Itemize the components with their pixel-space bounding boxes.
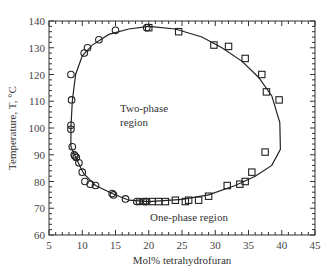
one-phase-label: One-phase region (150, 211, 228, 223)
square-marker (262, 149, 268, 155)
svg-text:15: 15 (110, 239, 122, 251)
svg-text:45: 45 (310, 239, 322, 251)
two-phase-label-1: Two-phase (120, 102, 168, 114)
circle-marker (143, 24, 150, 31)
svg-text:80: 80 (34, 176, 46, 188)
svg-text:10: 10 (77, 239, 89, 251)
square-marker (195, 197, 201, 203)
svg-text:110: 110 (29, 95, 46, 107)
square-marker (225, 43, 231, 49)
circle-marker (68, 97, 75, 104)
square-marker (276, 97, 282, 103)
x-axis-title: Mol% tetrahydrofuran (133, 254, 232, 266)
y-axis-title: Temperature, T, °C (6, 86, 18, 170)
svg-text:5: 5 (46, 239, 52, 251)
square-marker (259, 71, 265, 77)
chart: 5101520253035404560708090100110120130140… (0, 0, 334, 278)
two-phase-label-2: region (120, 116, 149, 128)
svg-text:40: 40 (276, 239, 288, 251)
svg-text:90: 90 (34, 149, 46, 161)
data-points (68, 24, 283, 204)
svg-text:30: 30 (210, 239, 222, 251)
svg-text:140: 140 (29, 15, 46, 27)
svg-text:35: 35 (243, 239, 255, 251)
square-marker (242, 55, 248, 61)
square-marker (249, 169, 255, 175)
circle-marker (68, 71, 75, 78)
svg-text:25: 25 (177, 239, 189, 251)
svg-text:20: 20 (143, 239, 155, 251)
svg-text:70: 70 (34, 202, 46, 214)
svg-text:100: 100 (29, 122, 46, 134)
svg-text:120: 120 (29, 69, 46, 81)
svg-text:60: 60 (34, 229, 46, 241)
svg-text:130: 130 (29, 42, 46, 54)
square-marker (162, 198, 168, 204)
